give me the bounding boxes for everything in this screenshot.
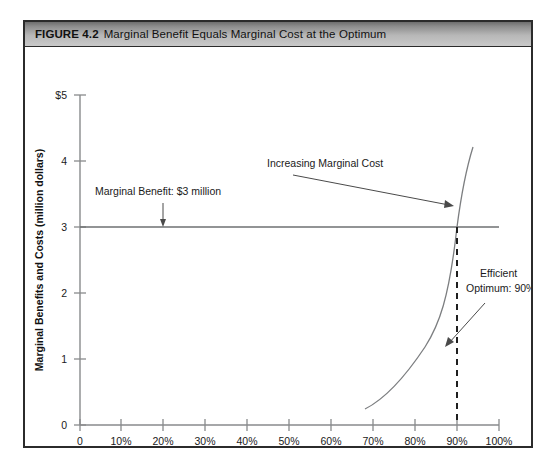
x-tick-label-100: 100% xyxy=(486,435,513,446)
annotation-marginal-benefit-arrowhead xyxy=(160,219,166,227)
y-axis-title: Marginal Benefits and Costs (million dol… xyxy=(33,149,45,371)
x-tick-label-90: 90% xyxy=(446,435,467,446)
x-tick-label-60: 60% xyxy=(320,435,341,446)
x-tick-label-70: 70% xyxy=(362,435,383,446)
y-tick-label-2: 2 xyxy=(61,287,67,299)
annotation-increasing-marginal-cost-arrowhead xyxy=(444,200,454,208)
annotation-marginal-benefit-label: Marginal Benefit: $3 million xyxy=(95,185,221,197)
annotation-efficient-optimum-label-line1: Efficient xyxy=(480,267,517,279)
y-tick-label-0: 0 xyxy=(61,419,67,431)
annotation-increasing-marginal-cost: Increasing Marginal Cost xyxy=(267,157,454,208)
marginal-cost-curve xyxy=(365,147,473,409)
x-tick-label-40: 40% xyxy=(236,435,257,446)
x-tick-label-30: 30% xyxy=(194,435,215,446)
annotation-efficient-optimum-label-line2: Optimum: 90% xyxy=(466,282,531,294)
annotation-marginal-benefit: Marginal Benefit: $3 million xyxy=(95,185,221,227)
x-tick-label-50: 50% xyxy=(278,435,299,446)
x-tick-label-10: 10% xyxy=(110,435,131,446)
chart-plot-area: $5 4 3 2 1 0 0 xyxy=(25,47,531,446)
figure-frame: FIGURE 4.2Marginal Benefit Equals Margin… xyxy=(23,20,533,448)
x-tick-label-20: 20% xyxy=(152,435,173,446)
figure-header-bar: FIGURE 4.2Marginal Benefit Equals Margin… xyxy=(25,22,531,47)
figure-caption: FIGURE 4.2Marginal Benefit Equals Margin… xyxy=(35,28,386,40)
figure-title: Marginal Benefit Equals Marginal Cost at… xyxy=(104,28,387,40)
y-tick-label-1: 1 xyxy=(61,353,67,365)
figure-number: FIGURE 4.2 xyxy=(35,28,99,40)
annotation-increasing-marginal-cost-label: Increasing Marginal Cost xyxy=(267,157,383,169)
chart-svg: $5 4 3 2 1 0 0 xyxy=(25,47,531,446)
x-tick-label-80: 80% xyxy=(404,435,425,446)
y-tick-label-4: 4 xyxy=(61,155,67,167)
x-tick-label-0: 0 xyxy=(77,435,83,446)
y-axis-tick-labels: $5 4 3 2 1 0 xyxy=(55,89,67,431)
y-tick-label-3: 3 xyxy=(61,221,67,233)
x-axis-tick-labels: 0 10% 20% 30% 40% 50% 60% 70% 80% 90% 10… xyxy=(77,435,512,446)
y-tick-label-5: $5 xyxy=(55,89,67,101)
